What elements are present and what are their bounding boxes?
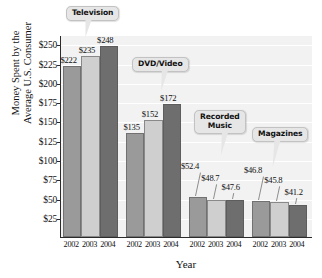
x-axis-tick-label: 2002 xyxy=(64,240,79,249)
bar-value-label: $235 xyxy=(79,45,95,55)
bar xyxy=(163,104,181,237)
bar-value-label: $48.7 xyxy=(201,173,219,183)
x-axis-tick-label: 2002 xyxy=(190,240,205,249)
x-axis-tick-label: 2002 xyxy=(127,240,142,249)
bar xyxy=(126,133,144,237)
x-axis-title: Year xyxy=(60,258,312,270)
bar xyxy=(270,202,288,237)
callout-tail xyxy=(83,20,92,37)
y-axis-tick-label: $50 xyxy=(43,195,57,205)
value-leader-line xyxy=(195,172,201,196)
y-axis-tick-label: $150 xyxy=(39,117,57,127)
bar-value-label: $52.4 xyxy=(181,161,199,171)
bar xyxy=(81,56,99,237)
x-axis-tick-label: 2004 xyxy=(289,240,304,249)
y-axis-tick-label: $25 xyxy=(43,214,57,224)
bar-chart: Money Spent by the Average U.S. Consumer… xyxy=(0,0,322,278)
value-leader-line xyxy=(232,193,234,199)
y-axis-tick-label: $100 xyxy=(39,156,57,166)
bar-value-label: $135 xyxy=(124,122,140,132)
y-axis-title-line-1: Money Spent by the xyxy=(10,31,22,116)
x-axis-tick-label: 2003 xyxy=(208,240,223,249)
value-leader-line xyxy=(213,184,217,199)
bar-value-label: $222 xyxy=(61,55,77,65)
bar-value-label: $47.6 xyxy=(222,182,240,192)
bar xyxy=(100,46,118,237)
group-callout-label: Television xyxy=(66,6,119,21)
bar xyxy=(207,200,225,238)
bar xyxy=(144,120,162,237)
bar-group: $52.4$48.7$47.6 xyxy=(189,36,244,237)
y-axis-tick-label: $125 xyxy=(39,137,57,147)
bar xyxy=(226,200,244,237)
y-axis-tick-labels: $25$50$75$100$125$150$175$200$225$250 xyxy=(26,36,57,238)
bar-value-label: $152 xyxy=(142,109,158,119)
group-callout-label: DVD/Video xyxy=(132,57,189,72)
y-axis-tick-label: $175 xyxy=(39,98,57,108)
value-leader-line xyxy=(276,186,280,201)
x-axis-tick-label: 2003 xyxy=(82,240,97,249)
y-axis-tick-label: $225 xyxy=(39,60,57,70)
bar xyxy=(252,201,270,237)
y-axis-tick-label: $200 xyxy=(39,79,57,89)
x-axis-tick-label: 2004 xyxy=(163,240,178,249)
x-axis-tick-label: 2004 xyxy=(100,240,115,249)
x-axis-tick-label: 2004 xyxy=(226,240,241,249)
bar-value-label: $248 xyxy=(97,35,113,45)
bar-value-label: $172 xyxy=(160,93,176,103)
bar xyxy=(63,66,81,237)
group-callout-label: Magazines xyxy=(252,127,308,142)
bar xyxy=(289,205,307,237)
x-axis-tick-label: 2003 xyxy=(145,240,160,249)
x-axis-tick-labels: 2002200320042002200320042002200320042002… xyxy=(60,240,312,254)
y-axis-tick-label: $75 xyxy=(43,175,57,185)
bar-group: $222$235$248 xyxy=(63,36,118,237)
x-axis-tick-label: 2003 xyxy=(271,240,286,249)
bar-value-label: $46.8 xyxy=(244,165,262,175)
y-axis-tick-label: $250 xyxy=(39,40,57,50)
x-axis-tick-label: 2002 xyxy=(253,240,268,249)
value-leader-line xyxy=(258,176,264,200)
bar-value-label: $45.8 xyxy=(264,175,282,185)
bar xyxy=(189,197,207,237)
bar-value-label: $41.2 xyxy=(285,187,303,197)
group-callout-label: RecordedMusic xyxy=(194,110,246,134)
group-callout-line: Music xyxy=(200,122,240,131)
value-leader-line xyxy=(295,198,297,204)
